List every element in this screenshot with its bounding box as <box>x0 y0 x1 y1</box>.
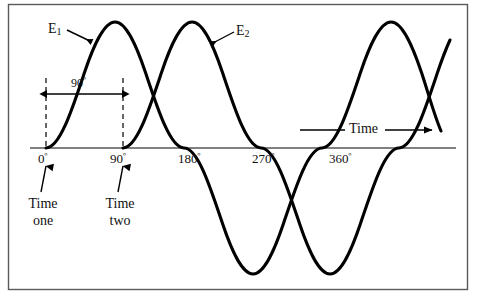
waveform-figure: E1 E2 90º Time 0º 90º 180º 270º 360º Tim… <box>0 0 477 297</box>
curve-label-e2: E2 <box>236 24 250 39</box>
time-two-line-2: two <box>91 212 149 229</box>
phase-difference-label: 90º <box>71 76 86 89</box>
time-one-line-2: one <box>14 212 72 229</box>
time-two-line-1: Time <box>91 195 149 212</box>
time-two-caption: Time two <box>91 195 149 229</box>
tick-label-90deg: 90º <box>110 152 126 165</box>
time-one-caption: Time one <box>14 195 72 229</box>
tick-label-360deg: 360º <box>329 152 351 165</box>
waveform-svg <box>0 0 477 297</box>
time-axis-label: Time <box>349 122 378 136</box>
tick-label-270deg: 270º <box>252 152 274 165</box>
time-one-line-1: Time <box>14 195 72 212</box>
tick-label-0deg: 0º <box>38 152 47 165</box>
tick-label-180deg: 180º <box>178 152 200 165</box>
curve-label-e1: E1 <box>48 22 62 37</box>
